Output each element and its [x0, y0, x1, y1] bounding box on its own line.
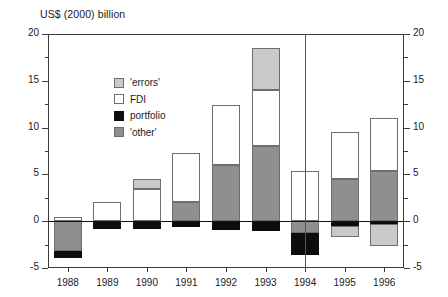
- x-tick: [345, 267, 346, 272]
- y-tick-major: [404, 221, 410, 222]
- bar-segment-fdi[interactable]: [252, 90, 280, 146]
- bar-segment-portfolio[interactable]: [54, 251, 82, 258]
- x-axis-label: 1992: [215, 277, 237, 288]
- y-tick-major: [42, 128, 48, 129]
- y-tick-major: [404, 34, 410, 35]
- legend-item-fdi[interactable]: FDI: [114, 93, 166, 106]
- legend-label: 'errors': [130, 77, 160, 88]
- x-axis-label: 1993: [254, 277, 276, 288]
- x-tick: [107, 267, 108, 272]
- bar-group-1995[interactable]: [331, 34, 359, 268]
- y-tick-minor: [45, 198, 49, 199]
- y-tick-major: [404, 128, 410, 129]
- bar-group-1989[interactable]: [93, 34, 121, 268]
- x-axis-label: 1995: [334, 277, 356, 288]
- bar-segment-fdi[interactable]: [133, 189, 161, 221]
- y-axis-label-left: 15: [28, 74, 39, 85]
- bar-segment-errors[interactable]: [370, 224, 398, 246]
- y-tick-minor: [45, 245, 49, 246]
- bar-segment-fdi[interactable]: [93, 202, 121, 221]
- bar-segment-portfolio[interactable]: [252, 221, 280, 230]
- y-tick-major: [404, 81, 410, 82]
- y-tick-minor: [45, 57, 49, 58]
- bar-group-1991[interactable]: [172, 34, 200, 268]
- y-tick-minor: [404, 245, 408, 246]
- bar-segment-other[interactable]: [331, 179, 359, 221]
- bar-segment-other[interactable]: [172, 202, 200, 221]
- y-tick-major: [42, 268, 48, 269]
- bar-segment-fdi[interactable]: [370, 118, 398, 170]
- legend-swatch-errors-icon: [114, 78, 124, 88]
- x-tick: [266, 267, 267, 272]
- y-tick-minor: [404, 104, 408, 105]
- zero-baseline: [48, 221, 404, 222]
- legend-label: FDI: [130, 94, 146, 105]
- y-tick-major: [42, 174, 48, 175]
- x-tick: [147, 267, 148, 272]
- marker-vertical-line: [305, 34, 306, 268]
- legend-swatch-fdi-icon: [114, 94, 124, 104]
- x-tick: [226, 267, 227, 272]
- chart-legend: 'errors'FDIportfolio'other': [114, 76, 166, 139]
- bar-segment-portfolio[interactable]: [172, 221, 200, 227]
- x-axis-label: 1994: [294, 277, 316, 288]
- plot-area: -5-50055101015152020 1988198919901991199…: [48, 34, 404, 268]
- y-tick-minor: [404, 151, 408, 152]
- y-axis-label-right: 5: [413, 167, 419, 178]
- chart-axis-title: US$ (2000) billion: [40, 8, 125, 20]
- y-axis-label-right: 0: [413, 214, 419, 225]
- x-tick: [68, 267, 69, 272]
- legend-swatch-portfolio-icon: [114, 111, 124, 121]
- legend-label: portfolio: [130, 110, 166, 121]
- legend-label: 'other': [130, 127, 157, 138]
- y-axis-label-right: 20: [413, 27, 424, 38]
- legend-swatch-other-icon: [114, 127, 124, 137]
- y-tick-major: [42, 81, 48, 82]
- x-tick: [305, 267, 306, 272]
- y-axis-label-left: 10: [28, 121, 39, 132]
- x-tick: [186, 267, 187, 272]
- bar-segment-other[interactable]: [370, 171, 398, 222]
- y-axis-label-left: -5: [30, 261, 39, 272]
- y-tick-minor: [45, 104, 49, 105]
- y-tick-minor: [45, 151, 49, 152]
- x-axis-label: 1990: [136, 277, 158, 288]
- y-axis-label-left: 20: [28, 27, 39, 38]
- bar-segment-errors[interactable]: [331, 226, 359, 237]
- x-axis-label: 1988: [57, 277, 79, 288]
- bar-segment-portfolio[interactable]: [133, 221, 161, 228]
- x-axis-label: 1989: [96, 277, 118, 288]
- y-axis-label-left: 5: [33, 167, 39, 178]
- x-axis-label: 1991: [175, 277, 197, 288]
- bar-segment-other[interactable]: [54, 221, 82, 251]
- y-tick-major: [42, 34, 48, 35]
- bar-group-1996[interactable]: [370, 34, 398, 268]
- bar-segment-fdi[interactable]: [331, 132, 359, 179]
- y-axis-label-right: -5: [413, 261, 422, 272]
- bar-segment-other[interactable]: [252, 146, 280, 221]
- bar-segment-fdi[interactable]: [212, 105, 240, 165]
- bar-segment-portfolio[interactable]: [212, 221, 240, 229]
- x-tick: [384, 267, 385, 272]
- y-tick-major: [404, 268, 410, 269]
- y-axis-label-right: 10: [413, 121, 424, 132]
- bar-group-1993[interactable]: [252, 34, 280, 268]
- bar-segment-portfolio[interactable]: [93, 221, 121, 228]
- bar-segment-fdi[interactable]: [172, 153, 200, 203]
- y-tick-minor: [404, 57, 408, 58]
- bar-segment-other[interactable]: [212, 165, 240, 221]
- bar-segment-errors[interactable]: [133, 179, 161, 189]
- chart-root: US$ (2000) billion -5-50055101015152020 …: [0, 0, 448, 297]
- legend-item-errors[interactable]: 'errors': [114, 76, 166, 89]
- bar-group-1992[interactable]: [212, 34, 240, 268]
- bar-group-1990[interactable]: [133, 34, 161, 268]
- bar-segment-errors[interactable]: [252, 48, 280, 90]
- legend-item-portfolio[interactable]: portfolio: [114, 109, 166, 122]
- bar-group-1988[interactable]: [54, 34, 82, 268]
- legend-item-other[interactable]: 'other': [114, 126, 166, 139]
- y-tick-minor: [404, 198, 408, 199]
- y-axis-label-right: 15: [413, 74, 424, 85]
- y-axis-left: [48, 34, 49, 268]
- y-tick-major: [404, 174, 410, 175]
- y-axis-label-left: 0: [33, 214, 39, 225]
